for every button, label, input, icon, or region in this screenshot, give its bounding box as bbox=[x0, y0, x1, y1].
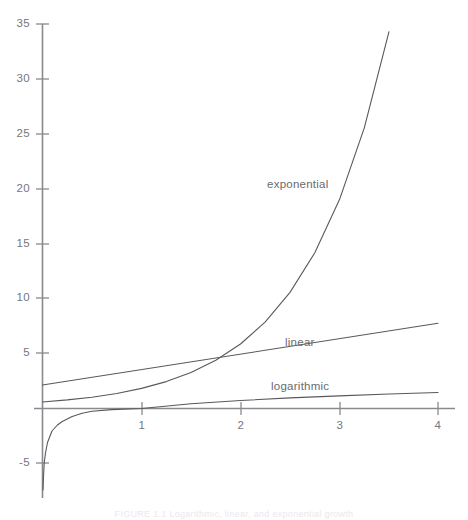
curve-exponential bbox=[43, 32, 390, 402]
plot-area bbox=[0, 0, 468, 520]
curve-label-logarithmic: logarithmic bbox=[271, 380, 329, 392]
y-tick-label-15: 15 bbox=[4, 237, 30, 249]
y-tick-label-25: 25 bbox=[4, 127, 30, 139]
y-tick-label-20: 20 bbox=[4, 182, 30, 194]
curve-label-exponential: exponential bbox=[267, 178, 329, 190]
y-tick-label-30: 30 bbox=[4, 72, 30, 84]
x-tick-label-1: 1 bbox=[132, 419, 152, 431]
x-tick-label-3: 3 bbox=[330, 419, 350, 431]
x-tick-label-4: 4 bbox=[428, 419, 448, 431]
y-tick-label-minus5: -5 bbox=[4, 456, 30, 468]
curve-linear bbox=[43, 323, 439, 385]
y-tick-label-35: 35 bbox=[4, 17, 30, 29]
x-tick-label-2: 2 bbox=[231, 419, 251, 431]
y-tick-label-10: 10 bbox=[4, 291, 30, 303]
figure-container: 35 30 25 20 15 10 5 -5 1 2 3 4 exponenti… bbox=[0, 0, 468, 520]
curve-label-linear: linear bbox=[285, 336, 315, 348]
figure-caption: FIGURE 1.1 Logarithmic, linear, and expo… bbox=[0, 509, 468, 519]
y-tick-label-5: 5 bbox=[4, 346, 30, 358]
